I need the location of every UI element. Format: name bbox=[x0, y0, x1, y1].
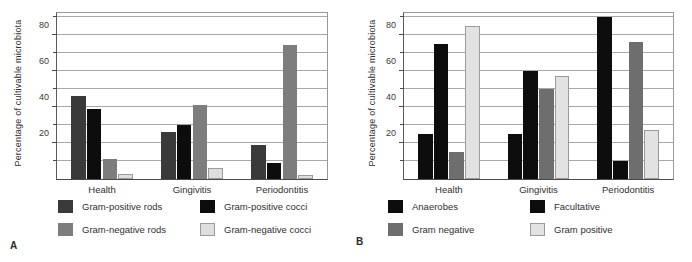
legend-swatch bbox=[58, 200, 73, 213]
legend-label: Gram positive bbox=[554, 224, 613, 235]
x-axis-category-label: Periodontitis bbox=[583, 184, 673, 195]
x-axis-category-label: Health bbox=[57, 184, 147, 195]
bar bbox=[449, 152, 464, 179]
bar-group: Periodontitis bbox=[237, 13, 327, 179]
bar bbox=[465, 26, 480, 179]
bar bbox=[251, 145, 266, 179]
bar bbox=[539, 89, 554, 179]
plot-area-a: 20406080HealthGingivitisPeriodontitis bbox=[56, 12, 328, 180]
bar-group: Health bbox=[404, 13, 494, 179]
bar bbox=[103, 159, 118, 179]
y-axis-label-b: Percentage of cultivable microbiota bbox=[367, 5, 377, 181]
bar bbox=[629, 42, 644, 179]
bar bbox=[434, 44, 449, 179]
panel-a: Percentage of cultivable microbiota 2040… bbox=[0, 0, 346, 262]
legend-item: Gram-negative rods bbox=[58, 223, 196, 236]
legend-label: Facultative bbox=[554, 201, 600, 212]
x-axis-category-label: Gingivitis bbox=[147, 184, 237, 195]
legend-label: Anaerobes bbox=[412, 201, 458, 212]
legend-swatch bbox=[530, 200, 545, 213]
legend-label: Gram-positive rods bbox=[82, 201, 162, 212]
bar-group: Gingivitis bbox=[147, 13, 237, 179]
bar bbox=[193, 105, 208, 179]
legend-item: Anaerobes bbox=[388, 200, 526, 213]
legend-label: Gram-positive cocci bbox=[224, 201, 307, 212]
bar bbox=[644, 130, 659, 179]
bar-group: Health bbox=[57, 13, 147, 179]
y-axis-label-a: Percentage of cultivable microbiota bbox=[13, 5, 23, 181]
legend-label: Gram-negative rods bbox=[82, 224, 166, 235]
legend-item: Gram-positive cocci bbox=[200, 200, 338, 213]
bar bbox=[418, 134, 433, 179]
bar bbox=[508, 134, 523, 179]
bar bbox=[613, 161, 628, 179]
bar bbox=[208, 168, 223, 179]
bar bbox=[71, 96, 86, 179]
bar-group: Periodontitis bbox=[583, 13, 673, 179]
y-axis-tick-label: 20 bbox=[386, 128, 396, 138]
figure-bar-charts: Percentage of cultivable microbiota 2040… bbox=[0, 0, 692, 262]
bar bbox=[87, 109, 102, 179]
bar bbox=[283, 45, 298, 179]
y-axis-tick-label: 60 bbox=[39, 56, 49, 66]
y-axis-tick-label: 80 bbox=[386, 20, 396, 30]
bar bbox=[118, 174, 133, 179]
legend-swatch bbox=[200, 200, 215, 213]
legend-swatch bbox=[530, 223, 545, 236]
plot-area-b: 20406080HealthGingivitisPeriodontitis bbox=[403, 12, 674, 180]
x-axis-category-label: Gingivitis bbox=[494, 184, 584, 195]
y-axis-tick-label: 80 bbox=[39, 20, 49, 30]
legend-item: Gram-positive rods bbox=[58, 200, 196, 213]
legend-swatch bbox=[58, 223, 73, 236]
panel-b: Percentage of cultivable microbiota 2040… bbox=[346, 0, 692, 262]
bar-group: Gingivitis bbox=[494, 13, 584, 179]
bar bbox=[523, 71, 538, 179]
bar bbox=[177, 125, 192, 179]
legend-swatch bbox=[388, 223, 403, 236]
y-axis-tick-label: 40 bbox=[386, 92, 396, 102]
bar bbox=[555, 76, 570, 179]
legend-swatch bbox=[200, 223, 215, 236]
bar bbox=[161, 132, 176, 179]
x-axis-category-label: Health bbox=[404, 184, 494, 195]
bar bbox=[298, 175, 313, 180]
legend-item: Gram positive bbox=[530, 223, 668, 236]
legend-swatch bbox=[388, 200, 403, 213]
y-axis-tick-label: 20 bbox=[39, 128, 49, 138]
legend-item: Gram-negative cocci bbox=[200, 223, 338, 236]
legend-label: Gram-negative cocci bbox=[224, 224, 311, 235]
y-axis-tick-label: 60 bbox=[386, 56, 396, 66]
bar bbox=[597, 17, 612, 179]
legend-b: AnaerobesFacultativeGram negativeGram po… bbox=[388, 200, 668, 236]
panel-letter-b: B bbox=[356, 236, 363, 247]
legend-label: Gram negative bbox=[412, 224, 474, 235]
legend-item: Gram negative bbox=[388, 223, 526, 236]
legend-a: Gram-positive rodsGram-positive cocciGra… bbox=[58, 200, 338, 236]
panel-letter-a: A bbox=[10, 240, 17, 251]
y-axis-tick-label: 40 bbox=[39, 92, 49, 102]
bar bbox=[267, 163, 282, 179]
legend-item: Facultative bbox=[530, 200, 668, 213]
x-axis-category-label: Periodontitis bbox=[237, 184, 327, 195]
